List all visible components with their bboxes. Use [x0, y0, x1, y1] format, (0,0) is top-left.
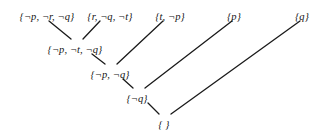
resolution-edge — [83, 21, 100, 39]
clause-node: {t, ¬p} — [155, 12, 185, 23]
clause-node: {p} — [227, 12, 241, 23]
clause-node: {¬q} — [126, 94, 147, 105]
resolution-edge — [148, 103, 159, 114]
clause-node: {r, ¬q, ¬t} — [87, 12, 132, 23]
resolution-proof-figure: {¬p, ¬r, ¬q}{r, ¬q, ¬t}{t, ¬p}{p}{q}{¬p,… — [0, 0, 321, 134]
clause-node: {q} — [295, 12, 309, 23]
resolution-edge — [117, 21, 163, 64]
resolution-edge — [171, 21, 300, 114]
clause-node: {¬p, ¬r, ¬q} — [20, 12, 75, 23]
resolution-edge — [92, 54, 105, 64]
clause-node: {¬p, ¬q} — [90, 70, 129, 81]
resolution-edge — [49, 21, 71, 39]
clause-node: { } — [158, 120, 169, 131]
resolution-edge — [145, 21, 232, 88]
clause-node: {¬p, ¬t, ¬q} — [48, 45, 103, 56]
